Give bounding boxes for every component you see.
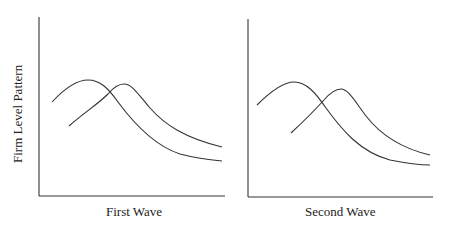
y-axis-label: Firm Level Pattern [10, 65, 26, 163]
right-x-axis-label: Second Wave [305, 204, 376, 220]
left-panel [39, 17, 225, 196]
left-x-axis-label: First Wave [106, 204, 162, 220]
left-curve-2 [69, 84, 222, 147]
chart-canvas [0, 0, 450, 231]
right-panel [248, 19, 433, 197]
right-curve-1 [257, 82, 430, 165]
